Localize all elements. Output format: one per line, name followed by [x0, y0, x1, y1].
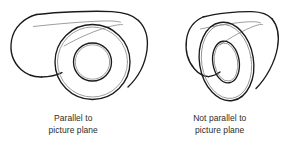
near-face-bore-inner-circle [75, 45, 109, 79]
tube-right-cap-arc [128, 21, 147, 88]
figure-root: Parallel to picture plane Not parallel t… [0, 0, 291, 152]
caption-not-parallel-line-2: picture plane [149, 125, 292, 137]
figure-not-parallel-to-picture-plane [186, 12, 278, 105]
near-face-outer-circle [55, 25, 130, 100]
tube-inner-bore-construction-line [34, 21, 121, 27]
caption-not-parallel-to-picture-plane: Not parallel to picture plane [145, 113, 292, 152]
near-face-outer-ellipse [194, 18, 260, 104]
near-face-wall-circle [58, 27, 128, 97]
tube2-top-silhouette [203, 12, 272, 19]
tube-top-silhouette [37, 11, 139, 20]
tube-back-end-arc-left [11, 15, 41, 78]
caption-parallel-line-2: picture plane [2, 125, 145, 137]
near-face-bore-circle [74, 43, 112, 81]
caption-parallel-line-1: Parallel to [2, 113, 145, 125]
caption-parallel-to-picture-plane: Parallel to picture plane [0, 113, 145, 152]
tube2-right-cap-arc [256, 19, 278, 89]
captions-row: Parallel to picture plane Not parallel t… [0, 113, 291, 152]
near-face-bore-inner-ellipse [212, 41, 241, 83]
figure-parallel-to-picture-plane [11, 11, 147, 99]
caption-not-parallel-line-1: Not parallel to [149, 113, 292, 125]
tube2-back-end-arc-left [186, 17, 208, 77]
